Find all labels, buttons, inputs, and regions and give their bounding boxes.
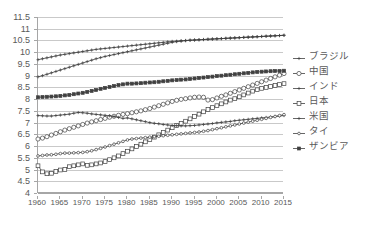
series-container (38, 17, 284, 193)
x-tick-mark (194, 196, 195, 199)
legend-marker-icon (292, 110, 306, 121)
y-tick-label: 6 (25, 142, 30, 151)
x-tick-mark (59, 196, 60, 199)
legend-label: 日本 (309, 95, 329, 106)
x-axis: 1960196519701975198019851990199520002005… (37, 196, 283, 216)
legend-marker-icon (292, 125, 306, 136)
x-tick-mark (37, 196, 38, 199)
x-tick-mark (82, 196, 83, 199)
legend-label: ザンビア (309, 140, 349, 151)
x-tick-label: 2015 (274, 198, 292, 207)
legend-item-0[interactable]: ブラジル (292, 48, 365, 63)
x-tick-mark (283, 196, 284, 199)
y-tick-label: 10 (20, 48, 30, 57)
x-tick-label: 1995 (185, 198, 203, 207)
y-tick-label: 6.5 (17, 130, 30, 139)
x-tick-mark (238, 196, 239, 199)
x-tick-mark (171, 196, 172, 199)
y-tick-label: 8 (25, 95, 30, 104)
legend-marker-icon (292, 140, 306, 151)
y-tick-label: 9 (25, 71, 30, 80)
legend-item-6[interactable]: ザンビア (292, 138, 365, 153)
legend-marker-icon (292, 65, 306, 76)
x-tick-label: 2005 (229, 198, 247, 207)
x-tick-label: 1965 (50, 198, 68, 207)
legend-item-1[interactable]: 中国 (292, 63, 365, 78)
legend-marker-icon (292, 95, 306, 106)
legend-label: タイ (309, 125, 329, 136)
legend-item-5[interactable]: タイ (292, 123, 365, 138)
legend-item-2[interactable]: インド (292, 78, 365, 93)
x-tick-label: 1975 (95, 198, 113, 207)
x-tick-label: 2000 (207, 198, 225, 207)
y-tick-label: 4.5 (17, 177, 30, 186)
x-tick-label: 1970 (73, 198, 91, 207)
y-tick-label: 4 (25, 189, 30, 198)
gridline (38, 193, 283, 194)
legend-item-3[interactable]: 日本 (292, 93, 365, 108)
y-tick-label: 9.5 (17, 59, 30, 68)
x-tick-mark (261, 196, 262, 199)
legend-label: 中国 (309, 65, 329, 76)
legend-item-4[interactable]: 米国 (292, 108, 365, 123)
x-tick-mark (149, 196, 150, 199)
x-tick-label: 1985 (140, 198, 158, 207)
legend-label: 米国 (309, 110, 329, 121)
x-tick-mark (126, 196, 127, 199)
legend-label: ブラジル (309, 50, 349, 61)
y-tick-label: 11 (21, 24, 30, 33)
legend-label: インド (309, 80, 339, 91)
legend-marker-icon (292, 80, 306, 91)
y-tick-label: 7 (25, 118, 30, 127)
y-tick-label: 5.5 (17, 153, 30, 162)
y-axis: 44.555.566.577.588.599.51010.51111.5 (0, 17, 34, 193)
y-tick-label: 11.5 (13, 13, 30, 22)
y-tick-label: 5 (25, 165, 30, 174)
plot-area (37, 17, 283, 193)
y-tick-label: 7.5 (17, 106, 30, 115)
x-tick-label: 1990 (162, 198, 180, 207)
y-tick-label: 10.5 (12, 36, 30, 45)
x-tick-label: 1980 (118, 198, 136, 207)
line-chart: 44.555.566.577.588.599.51010.51111.5 196… (0, 0, 365, 227)
x-tick-mark (216, 196, 217, 199)
x-tick-label: 2010 (252, 198, 270, 207)
y-tick-mark (34, 193, 37, 194)
y-tick-label: 8.5 (17, 83, 30, 92)
x-tick-label: 1960 (28, 198, 46, 207)
x-tick-mark (104, 196, 105, 199)
legend-marker-icon (292, 50, 306, 61)
chart-legend: ブラジル中国インド日本米国タイザンビア (292, 48, 365, 153)
